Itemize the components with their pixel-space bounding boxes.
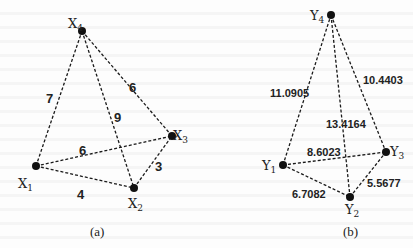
edge-y2-y3	[350, 152, 386, 197]
vertex-label: Y3	[389, 144, 405, 161]
panel-caption: (a)	[90, 224, 104, 239]
vertex-label: X3	[173, 128, 188, 145]
edge-x1-x2	[36, 166, 134, 188]
edge-weight-label: 6	[129, 80, 136, 95]
vertex-label: Y2	[344, 202, 359, 219]
vertex-x1	[32, 162, 40, 170]
panel-a: 769634X1X2X3X4(a)	[18, 16, 188, 239]
edge-weight-label: 8.6023	[307, 146, 341, 158]
figure-canvas: 769634X1X2X3X4(a)11.090510.440313.41648.…	[0, 0, 413, 248]
vertex-label: Y4	[309, 8, 325, 25]
edge-weight-label: 5.5677	[367, 177, 401, 189]
edge-weight-label: 10.4403	[363, 74, 403, 86]
vertex-label: X2	[128, 196, 143, 213]
vertex-label: Y1	[261, 158, 276, 175]
vertex-x2	[130, 184, 138, 192]
edge-weight-label: 6	[79, 143, 86, 158]
edge-weight-label: 13.4164	[326, 118, 367, 130]
panel-caption: (b)	[343, 224, 358, 239]
vertex-label: X4	[68, 16, 83, 33]
edge-weight-label: 6.7082	[292, 188, 326, 200]
vertex-label: X1	[18, 176, 33, 193]
vertex-y3	[382, 148, 390, 156]
edge-weight-label: 7	[46, 91, 53, 106]
edge-weight-label: 9	[114, 110, 121, 125]
edge-weight-label: 11.0905	[270, 87, 309, 99]
vertex-y1	[279, 161, 287, 169]
edge-weight-label: 3	[155, 159, 162, 174]
edge-weight-label: 4	[77, 187, 85, 202]
vertex-y2	[346, 193, 354, 201]
graph-figure: 769634X1X2X3X4(a)11.090510.440313.41648.…	[0, 0, 413, 248]
vertex-y4	[327, 11, 335, 19]
